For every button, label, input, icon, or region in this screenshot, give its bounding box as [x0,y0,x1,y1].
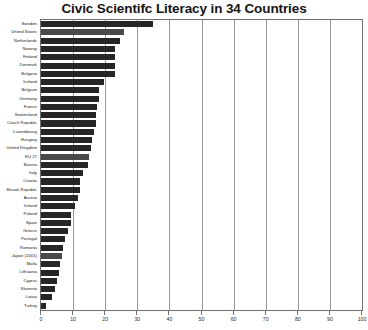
bar-row [41,235,362,243]
bar-malta [41,261,60,267]
category-label: Lithuania [0,268,39,276]
bar-turkey [41,303,46,309]
bar-ireland [41,203,75,209]
bar-belgium [41,87,99,93]
category-label: Slovak Republic [0,186,39,194]
category-label: Italy [0,169,39,177]
category-label-text: Bulgaria [0,70,37,78]
category-label-text: Turkey [0,302,37,310]
category-label-text: Latvia [0,293,37,301]
bar-germany [41,96,99,102]
x-tickmark-70 [265,311,266,315]
bar-row [41,177,362,185]
bar-row [41,103,362,111]
category-label: Norway [0,45,39,53]
bar-row [41,153,362,161]
bar-row [41,244,362,252]
category-label-text: Bosnia [0,161,37,169]
bar-row [41,210,362,218]
category-label-text: Hungary [0,136,37,144]
category-label: Belgium [0,86,39,94]
bar-slovenia [41,286,55,292]
bar-row [41,202,362,210]
category-label: Austria [0,194,39,202]
x-tick-label-10: 10 [70,316,76,322]
bar-cyprus [41,278,57,284]
bar-france [41,104,97,110]
category-label: Switzerland [0,111,39,119]
bar-switzerland [41,112,96,118]
category-label-text: Greece [0,227,37,235]
bar-finland [41,54,115,60]
bar-row [41,119,362,127]
bar-row [41,302,362,310]
category-label: Bosnia [0,161,39,169]
bar-slovak-republic [41,187,80,193]
bar-greece [41,228,68,234]
bar-italy [41,170,83,176]
category-label: Germany [0,95,39,103]
x-tickmark-60 [233,311,234,315]
bar-spain [41,220,71,226]
category-label-text: Lithuania [0,268,37,276]
category-labels-axis: SwedenUnited StatesNetherlandsNorwayFinl… [0,20,39,310]
bar-poland [41,212,71,218]
category-label-text: Sweden [0,20,37,28]
x-tickmark-90 [329,311,330,315]
bar-lithuania [41,270,59,276]
category-label: Czech Republic [0,119,39,127]
x-tickmark-10 [72,311,73,315]
category-label: Latvia [0,293,39,301]
bar-portugal [41,236,65,242]
chart-title: Civic Scientifc Literacy in 34 Countries [0,1,368,16]
category-label-text: Portugal [0,235,37,243]
bar-row [41,37,362,45]
x-tickmark-100 [361,311,362,315]
category-label: Spain [0,219,39,227]
bar-row [41,128,362,136]
bar-eu-27 [41,154,89,160]
category-label: Cyprus [0,277,39,285]
category-label: Hungary [0,136,39,144]
x-tickmark-30 [136,311,137,315]
category-label: Portugal [0,235,39,243]
bar-croatia [41,178,80,184]
bar-row [41,186,362,194]
category-label: United States [0,28,39,36]
category-label-text: Austria [0,194,37,202]
category-label-text: Germany [0,95,37,103]
x-tick-label-30: 30 [134,316,140,322]
category-label: Finland [0,53,39,61]
category-label-text: Cyprus [0,277,37,285]
bar-latvia [41,294,52,300]
bar-iceland [41,79,104,85]
bar-row [41,285,362,293]
category-label: France [0,103,39,111]
x-tick-label-40: 40 [167,316,173,322]
category-label-text: Poland [0,210,37,218]
category-label: United Kingdom [0,144,39,152]
category-label-text: Netherlands [0,37,37,45]
category-label: Iceland [0,78,39,86]
bar-bulgaria [41,71,115,77]
category-label-text: United Kingdom [0,144,37,152]
bar-united-kingdom [41,145,91,151]
category-label: Netherlands [0,37,39,45]
x-tick-label-60: 60 [231,316,237,322]
bar-row [41,161,362,169]
bar-row [41,20,362,28]
bar-bosnia [41,162,88,168]
category-label-text: Belgium [0,86,37,94]
bar-row [41,260,362,268]
x-tickmark-40 [168,311,169,315]
category-label: EU 27 [0,153,39,161]
bar-romania [41,245,63,251]
bar-row [41,61,362,69]
category-label: Ireland [0,202,39,210]
x-tickmark-0 [40,311,41,315]
category-label-text: France [0,103,37,111]
category-label-text: United States [0,28,37,36]
bar-austria [41,195,78,201]
bar-sweden [41,21,153,27]
category-label-text: Denmark [0,61,37,69]
